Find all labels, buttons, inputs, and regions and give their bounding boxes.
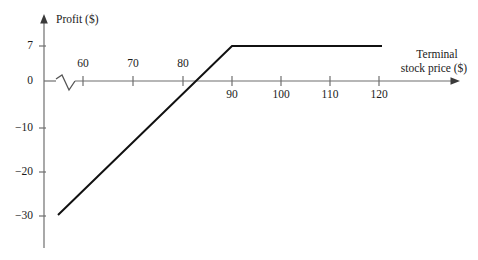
x-tick-label-80: 80 xyxy=(163,57,203,70)
x-tick-label-90: 90 xyxy=(212,88,252,101)
x-tick-label-70: 70 xyxy=(113,57,153,70)
x-tick-label-120: 120 xyxy=(359,88,399,101)
y-tick-label-0: 0 xyxy=(0,74,33,87)
payoff-line xyxy=(58,46,382,215)
y-tick-label-neg10: −10 xyxy=(0,121,33,134)
y-axis-title: Profit ($) xyxy=(56,13,98,26)
chart-canvas xyxy=(0,0,478,260)
y-tick-label-neg30: −30 xyxy=(0,209,33,222)
x-axis-arrow-icon xyxy=(451,77,461,85)
x-tick-label-110: 110 xyxy=(310,88,350,101)
y-axis-arrow-icon xyxy=(40,14,48,24)
x-tick-label-100: 100 xyxy=(261,88,301,101)
x-tick-label-60: 60 xyxy=(63,57,103,70)
axis-break-zigzag-icon xyxy=(56,75,75,90)
y-tick-label-7: 7 xyxy=(0,39,33,52)
x-axis-title-line2: stock price ($) xyxy=(390,61,478,75)
y-tick-label-neg20: −20 xyxy=(0,165,33,178)
chart-figure: Profit ($) Terminal stock price ($) 7 0 … xyxy=(0,0,478,260)
x-axis-title-line1: Terminal xyxy=(396,47,478,61)
